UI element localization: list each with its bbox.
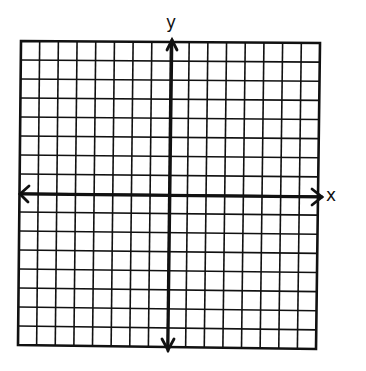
graph-paper-grid [0, 0, 366, 371]
horizontal-gridline [21, 79, 320, 81]
axes [20, 40, 322, 351]
y-axis-label: y [166, 14, 176, 31]
x-axis-label: x [326, 187, 336, 204]
coordinate-plane: y x [0, 0, 366, 371]
y-axis [168, 40, 172, 351]
horizontal-gridline [21, 60, 320, 62]
